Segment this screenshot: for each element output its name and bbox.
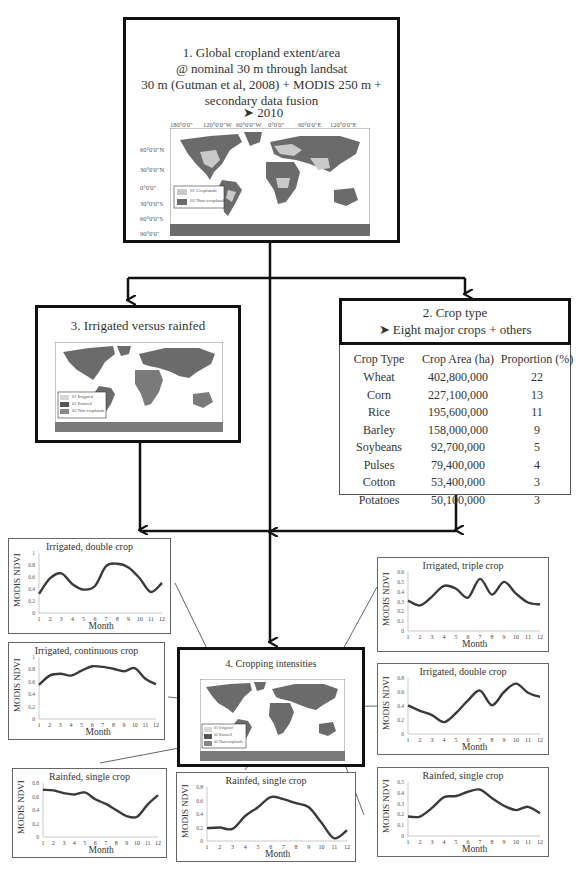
legend-non-croplands: 02 Non-croplands	[190, 198, 226, 203]
svg-text:0.4: 0.4	[397, 703, 404, 709]
svg-text:2: 2	[49, 616, 52, 622]
map1-left-tick: 30°0'0"S	[140, 200, 163, 207]
svg-text:5: 5	[455, 737, 458, 743]
box-1-title-line-3: 30 m (Gutman et al, 2008) + MODIS 250 m …	[123, 77, 400, 93]
svg-text:10: 10	[513, 839, 519, 845]
svg-text:0.1: 0.1	[397, 822, 404, 828]
chart-y-axis-label: MODIS NDVI	[180, 784, 190, 838]
svg-text:8: 8	[491, 737, 494, 743]
cell-area: 79,400,000	[418, 458, 498, 473]
header-crop-area: Crop Area (ha)	[418, 352, 498, 367]
chart-x-axis-label: Month	[462, 639, 487, 649]
chart-title: Irrigated, triple crop	[378, 560, 548, 571]
svg-text:5: 5	[455, 634, 458, 640]
svg-text:9: 9	[503, 634, 506, 640]
map1-left-tick: 0°0'0"	[140, 184, 156, 191]
cell-proportion: 4	[498, 458, 576, 473]
svg-text:3: 3	[431, 634, 434, 640]
global-cropland-map: 01 Croplands 02 Non-croplands	[170, 128, 370, 236]
cell-proportion: 3	[498, 493, 576, 508]
svg-text:8: 8	[491, 634, 494, 640]
svg-text:2: 2	[52, 840, 55, 846]
svg-text:8: 8	[116, 616, 119, 622]
cropping-intensities-map: 01 Irrigated 02 Rainfed 03 Non-croplands	[200, 679, 345, 761]
chart-y-axis-label: MODIS NDVI	[12, 553, 22, 607]
svg-text:9: 9	[503, 737, 506, 743]
svg-text:0: 0	[32, 610, 35, 616]
map1-left-tick: 60°0'0"S	[140, 215, 163, 222]
chart-x-axis-label: Month	[265, 849, 290, 859]
cell-crop: Wheat	[340, 370, 418, 385]
cell-area: 402,800,000	[418, 370, 498, 385]
box-1-title-line-1: 1. Global cropland extent/area	[123, 45, 400, 61]
svg-text:1: 1	[206, 844, 209, 850]
svg-text:1: 1	[38, 722, 41, 728]
legend-irrigated: 01 Irrigated	[72, 394, 93, 399]
svg-text:5: 5	[83, 840, 86, 846]
svg-text:0: 0	[200, 838, 203, 844]
svg-text:4: 4	[244, 844, 247, 850]
svg-text:8: 8	[295, 844, 298, 850]
svg-text:12: 12	[155, 840, 161, 846]
svg-text:0.2: 0.2	[397, 608, 404, 614]
bullet-2010: ➤ 2010	[243, 103, 283, 123]
svg-text:0.2: 0.2	[397, 811, 404, 817]
cell-area: 50,100,000	[418, 493, 498, 508]
svg-text:0.4: 0.4	[28, 586, 35, 592]
chart-x-axis-label: Month	[462, 742, 487, 752]
cell-area: 195,600,000	[418, 405, 498, 420]
svg-text:1: 1	[407, 737, 410, 743]
table-row: Barley158,000,0009	[340, 422, 576, 440]
ndvi-line-plot: 00.20.40.60.8123456789101112	[177, 773, 355, 861]
cell-proportion: 13	[498, 388, 576, 403]
chart-title: Rainfed, single crop	[13, 771, 166, 782]
svg-text:0: 0	[401, 731, 404, 737]
svg-text:0.6: 0.6	[28, 574, 35, 580]
svg-text:8: 8	[491, 839, 494, 845]
svg-text:3: 3	[431, 737, 434, 743]
table-header-row: Crop Type Crop Area (ha) Proportion (%)	[340, 349, 576, 369]
chart-x-axis-label: Month	[462, 844, 487, 854]
table-row: Rice195,600,00011	[340, 404, 576, 422]
svg-text:0.2: 0.2	[32, 821, 39, 827]
chart-y-axis-label: MODIS NDVI	[381, 676, 391, 730]
map1-left-tick: 60°0'0"N	[140, 146, 164, 153]
svg-text:11: 11	[331, 844, 337, 850]
svg-text:5: 5	[256, 844, 259, 850]
svg-text:0: 0	[401, 833, 404, 839]
svg-text:1: 1	[42, 840, 45, 846]
chart-title: Irrigated, continuous crop	[9, 645, 164, 656]
svg-text:10: 10	[319, 844, 325, 850]
svg-text:11: 11	[525, 839, 531, 845]
box-1-title-line-2: @ nominal 30 m through landsat	[123, 61, 400, 77]
crop-table-content: Crop Type Crop Area (ha) Proportion (%) …	[340, 349, 576, 509]
table-row: Soybeans92,700,0005	[340, 439, 576, 457]
svg-text:8: 8	[112, 722, 115, 728]
svg-text:10: 10	[513, 737, 519, 743]
svg-text:12: 12	[537, 634, 543, 640]
chart-x-axis-label: Month	[86, 727, 111, 737]
chart-title: Irrigated, double crop	[378, 666, 548, 677]
ndvi-chart-rainfed-single-center: 00.20.40.60.8123456789101112Rainfed, sin…	[176, 772, 356, 862]
svg-text:0: 0	[401, 628, 404, 634]
table-row: Potatoes50,100,0003	[340, 492, 576, 510]
map1-top-tick: 0°0'0"	[268, 121, 284, 128]
svg-text:4: 4	[71, 616, 74, 622]
svg-text:5: 5	[80, 722, 83, 728]
legend-rainfed: 02 Rainfed	[214, 732, 232, 737]
svg-text:12: 12	[153, 722, 159, 728]
svg-text:0.2: 0.2	[196, 825, 203, 831]
svg-text:8: 8	[115, 840, 118, 846]
cell-crop: Pulses	[340, 458, 418, 473]
box-3-title: 3. Irrigated versus rainfed	[35, 318, 241, 334]
legend-non-croplands: 03 Non-croplands	[72, 408, 104, 413]
svg-text:0.6: 0.6	[32, 794, 39, 800]
svg-text:5: 5	[82, 616, 85, 622]
map1-top-tick: 120°0'0"E	[330, 121, 357, 128]
svg-text:12: 12	[159, 616, 165, 622]
ndvi-line-plot: 00.10.20.30.40.50.6123456789101112	[378, 558, 548, 651]
box-1-title: 1. Global cropland extent/area @ nominal…	[123, 45, 400, 109]
cell-proportion: 22	[498, 370, 576, 385]
ndvi-line-plot: 00.20.40.60.81123456789101112	[9, 643, 164, 739]
svg-text:4: 4	[73, 840, 76, 846]
